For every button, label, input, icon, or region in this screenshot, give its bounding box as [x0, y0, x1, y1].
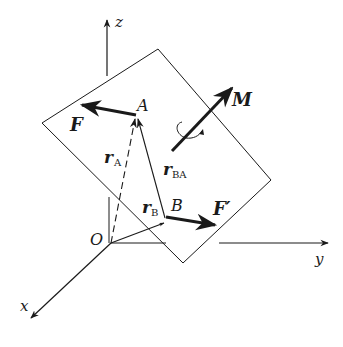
force-couple-diagram: z y x O A B F F′ M r A r B r BA [0, 0, 343, 347]
z-axis-label: z [114, 13, 123, 31]
r-b-vector [111, 223, 164, 243]
x-axis [31, 243, 111, 318]
r-b-label: r B [142, 197, 158, 218]
z-axis [107, 20, 109, 243]
r-a-label: r A [104, 147, 122, 168]
svg-text:B: B [151, 207, 158, 218]
r-ba-label: r BA [163, 159, 187, 180]
origin-label: O [90, 230, 103, 249]
r-a-vector [111, 119, 135, 243]
moment-m-label: M [231, 89, 253, 110]
svg-text:r: r [104, 147, 114, 167]
point-a-label: A [135, 96, 149, 115]
force-f-vector [82, 105, 136, 115]
x-axis-label: x [20, 297, 29, 315]
plane [42, 49, 271, 263]
force-f-prime-vector [166, 217, 215, 225]
y-axis-label: y [314, 250, 324, 268]
force-f-prime-label: F′ [212, 198, 231, 219]
moment-m-vector [172, 88, 232, 151]
point-b-label: B [170, 196, 183, 215]
force-f-label: F [69, 114, 84, 135]
svg-text:BA: BA [172, 169, 187, 180]
svg-text:A: A [113, 157, 122, 168]
